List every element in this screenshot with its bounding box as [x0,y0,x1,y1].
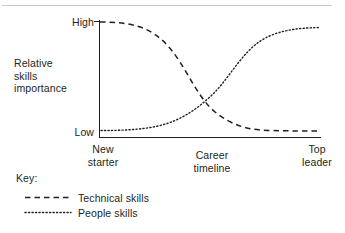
legend-item-label-people-skills: People skills [78,207,138,219]
y-tick-label-high: High [52,16,94,29]
series-line-people-skills [101,28,320,131]
x-tick-label-top-leader: Top leader [291,143,343,168]
chart-canvas [0,0,345,233]
y-axis-title: Relative skills importance [14,57,94,95]
legend-item-label-technical-skills: Technical skills [78,192,149,204]
series-line-technical-skills [100,22,320,131]
x-tick-label-new-starter: New starter [73,143,133,168]
legend-title: Key: [16,172,37,185]
chart-figure: Relative skills importance High Low New … [0,0,345,233]
x-axis-title-career-timeline: Career timeline [177,149,247,174]
y-tick-label-low: Low [52,126,94,139]
